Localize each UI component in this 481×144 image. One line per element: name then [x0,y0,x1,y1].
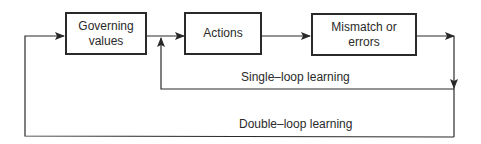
node-label-line: Governing [78,19,133,34]
node-label-line: errors [348,35,379,50]
node-actions: Actions [184,12,262,55]
node-label-line: Actions [203,26,242,41]
node-mismatch-or-errors: Mismatch or errors [311,13,417,56]
node-governing-values: Governing values [65,12,147,55]
node-label-line: Mismatch or [331,20,396,35]
double-loop-label: Double–loop learning [239,117,352,131]
node-label-line: values [89,34,124,49]
single-loop-label: Single–loop learning [241,70,350,84]
